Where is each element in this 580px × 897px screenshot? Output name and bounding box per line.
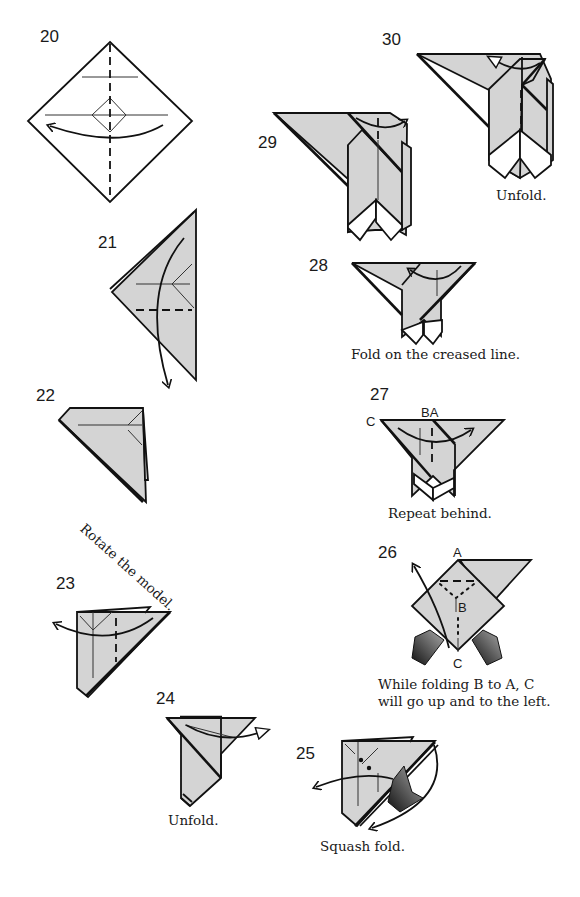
caption-step-26-line1: While folding B to A, C	[378, 676, 534, 692]
step-22-diagram	[59, 408, 148, 502]
step-30-diagram	[417, 54, 553, 178]
step-28-diagram	[352, 263, 475, 344]
caption-step-27: Repeat behind.	[388, 505, 492, 521]
step-number-28: 28	[309, 256, 328, 276]
caption-step-28: Fold on the creased line.	[351, 346, 520, 362]
step-25-diagram	[316, 737, 438, 828]
caption-step-25: Squash fold.	[320, 838, 405, 854]
step-number-21: 21	[98, 233, 117, 253]
step-23-diagram	[56, 607, 170, 697]
step-24-diagram	[167, 717, 258, 806]
step-21-diagram	[110, 210, 196, 385]
step-number-29: 29	[258, 133, 277, 153]
step-number-24: 24	[156, 689, 175, 709]
step-29-diagram	[274, 113, 411, 240]
step-number-26: 26	[378, 543, 397, 563]
caption-step-26-line2: will go up and to the left.	[378, 693, 550, 709]
point-label-c-26: C	[453, 656, 462, 671]
point-label-b-26: B	[458, 600, 467, 615]
step-20-diagram	[28, 42, 192, 202]
step-number-25: 25	[296, 744, 315, 764]
point-label-c-27: C	[366, 414, 375, 429]
step-number-30: 30	[382, 30, 401, 50]
point-label-ba-27: BA	[421, 405, 438, 420]
origami-instructions-page: 20 21 22 23 24 25 26 27 28 29 30 A B C B…	[0, 0, 580, 897]
step-26-diagram	[412, 560, 531, 665]
step-number-23: 23	[56, 574, 75, 594]
step-number-27: 27	[370, 385, 389, 405]
step-number-22: 22	[36, 386, 55, 406]
caption-step-24: Unfold.	[168, 812, 218, 828]
fold-diagrams	[0, 0, 580, 897]
caption-step-30: Unfold.	[496, 187, 546, 203]
step-27-diagram	[381, 420, 504, 500]
step-number-20: 20	[40, 27, 59, 47]
point-label-a-26: A	[453, 545, 462, 560]
